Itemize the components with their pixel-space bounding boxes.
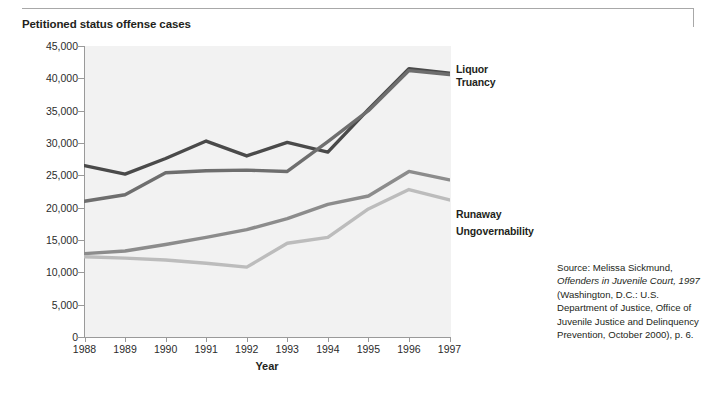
x-axis-tick-mark bbox=[450, 337, 451, 342]
x-axis-tick-mark bbox=[287, 337, 288, 342]
y-axis-tick-mark bbox=[77, 272, 84, 273]
x-axis-tick-mark bbox=[409, 337, 410, 342]
y-axis-tick-mark bbox=[77, 240, 84, 241]
y-axis-tick-mark bbox=[77, 337, 84, 338]
series-label-liquor: Liquor bbox=[456, 63, 488, 75]
x-axis-tick-label: 1995 bbox=[357, 343, 380, 355]
y-axis-tick-label: 40,000 bbox=[8, 72, 78, 84]
source-italic-title: Offenders in Juvenile Court, 1997 bbox=[557, 275, 700, 286]
right-divider-rule bbox=[693, 8, 694, 27]
plot-lines bbox=[84, 46, 450, 337]
y-axis-tick-mark bbox=[77, 208, 84, 209]
x-axis-tick-mark bbox=[166, 337, 167, 342]
x-axis-tick-label: 1997 bbox=[438, 343, 461, 355]
x-axis-tick-label: 1993 bbox=[276, 343, 299, 355]
source-note: Source: Melissa Sickmund, Offenders in J… bbox=[557, 261, 705, 341]
series-label-runaway: Runaway bbox=[456, 208, 501, 220]
y-axis-tick-label: 35,000 bbox=[8, 105, 78, 117]
y-axis-tick-label: 45,000 bbox=[8, 40, 78, 52]
x-axis-title: Year bbox=[84, 360, 450, 372]
x-axis-tick-mark bbox=[247, 337, 248, 342]
y-axis-tick-mark bbox=[77, 111, 84, 112]
y-axis-tick-label: 25,000 bbox=[8, 169, 78, 181]
top-divider-rule bbox=[22, 8, 694, 9]
y-axis-tick-label: 5,000 bbox=[8, 299, 78, 311]
x-axis-tick-mark bbox=[85, 337, 86, 342]
y-axis-tick-label: 15,000 bbox=[8, 234, 78, 246]
x-axis-tick-mark bbox=[206, 337, 207, 342]
y-axis-tick-mark bbox=[77, 305, 84, 306]
series-line-ungovernability bbox=[85, 190, 450, 268]
x-axis-tick-label: 1988 bbox=[73, 343, 96, 355]
y-axis-tick-label: 0 bbox=[8, 331, 78, 343]
y-axis-tick-label: 10,000 bbox=[8, 266, 78, 278]
x-axis-tick-mark bbox=[328, 337, 329, 342]
y-axis-tick-label: 20,000 bbox=[8, 202, 78, 214]
x-axis-tick-mark bbox=[125, 337, 126, 342]
y-axis-tick-mark bbox=[77, 46, 84, 47]
series-line-runaway bbox=[85, 171, 450, 253]
x-axis-tick-label: 1992 bbox=[235, 343, 258, 355]
y-axis-tick-mark bbox=[77, 143, 84, 144]
source-suffix: (Washington, D.C.: U.S. Department of Ju… bbox=[557, 289, 699, 340]
x-axis-tick-mark bbox=[368, 337, 369, 342]
x-axis-tick-label: 1989 bbox=[113, 343, 136, 355]
x-axis-tick-label: 1994 bbox=[316, 343, 339, 355]
x-axis-tick-label: 1991 bbox=[194, 343, 217, 355]
x-axis-tick-label: 1990 bbox=[154, 343, 177, 355]
x-axis-tick-label: 1996 bbox=[397, 343, 420, 355]
series-label-ungovernability: Ungovernability bbox=[456, 225, 534, 237]
line-chart: 05,00010,00015,00020,00025,00030,00035,0… bbox=[22, 38, 462, 343]
y-axis-tick-label: 30,000 bbox=[8, 137, 78, 149]
figure-title: Petitioned status offense cases bbox=[22, 18, 191, 30]
y-axis-tick-mark bbox=[77, 78, 84, 79]
y-axis-tick-mark bbox=[77, 175, 84, 176]
series-label-truancy: Truancy bbox=[456, 76, 496, 88]
source-prefix: Source: Melissa Sickmund, bbox=[557, 262, 673, 273]
